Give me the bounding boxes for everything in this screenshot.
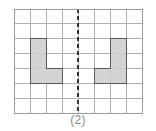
shape-cell [111,54,127,69]
left-l-shape [30,39,62,84]
shape-cell [95,69,111,84]
shape-cell [46,69,62,84]
shape-cell [111,39,127,54]
figure-caption: (2) [0,112,156,128]
shape-cell [30,39,46,54]
shape-cell [30,54,46,69]
shape-cell [111,69,127,84]
symmetry-figure: (2) [0,0,156,131]
shape-cell [30,69,46,84]
right-l-shape [95,39,127,84]
